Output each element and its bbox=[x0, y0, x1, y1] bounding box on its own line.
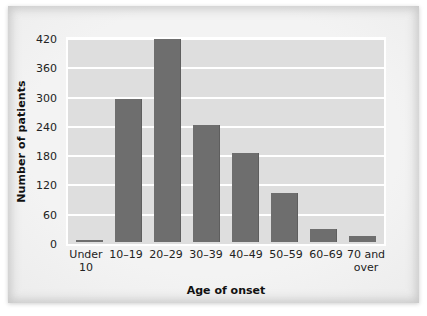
x-axis-tick-label-line: 40–49 bbox=[226, 248, 266, 261]
y-axis-tick-label: 300 bbox=[36, 91, 57, 104]
x-axis-tick-label-line: 30–39 bbox=[186, 248, 226, 261]
bar bbox=[310, 229, 337, 242]
y-axis-tick-label: 120 bbox=[36, 179, 57, 192]
x-axis-tick-label: 40–49 bbox=[226, 248, 266, 274]
x-axis-tick-label-line: 70 and bbox=[346, 248, 386, 261]
y-axis-tick-label: 420 bbox=[36, 33, 57, 46]
bar-chart-figure: Number of patients 060120180240300360420… bbox=[0, 0, 427, 316]
x-axis-tick-label: Under10 bbox=[66, 248, 106, 274]
x-axis-tick-label: 20–29 bbox=[146, 248, 186, 274]
bar-slot bbox=[187, 41, 226, 242]
bar bbox=[115, 99, 142, 242]
x-axis-tick-label: 50–59 bbox=[266, 248, 306, 274]
x-axis-tick-label-line: Under bbox=[66, 248, 106, 261]
y-axis-tick-labels: 060120180240300360420 bbox=[0, 37, 62, 246]
x-axis-tick-labels: Under1010–1920–2930–3940–4950–5960–6970 … bbox=[66, 248, 386, 274]
x-axis-title: Age of onset bbox=[66, 284, 386, 297]
bar-series bbox=[70, 41, 382, 242]
bar-slot bbox=[109, 41, 148, 242]
x-axis-tick-label-line: 10 bbox=[66, 261, 106, 274]
bar bbox=[349, 236, 376, 242]
y-axis-tick-label: 240 bbox=[36, 120, 57, 133]
bar bbox=[154, 39, 181, 242]
bar bbox=[193, 125, 220, 242]
x-axis-tick-label: 30–39 bbox=[186, 248, 226, 274]
y-axis-tick-label: 60 bbox=[43, 208, 57, 221]
bar-slot bbox=[70, 41, 109, 242]
x-axis-tick-label: 10–19 bbox=[106, 248, 146, 274]
x-axis-tick-label-line: 60–69 bbox=[306, 248, 346, 261]
plot-area bbox=[66, 37, 386, 246]
bar-slot bbox=[304, 41, 343, 242]
x-axis-tick-label-line: 20–29 bbox=[146, 248, 186, 261]
bar bbox=[232, 153, 259, 242]
bar-slot bbox=[343, 41, 382, 242]
y-axis-tick-label: 0 bbox=[50, 238, 57, 251]
bar-slot bbox=[226, 41, 265, 242]
x-axis-tick-label-line: 50–59 bbox=[266, 248, 306, 261]
bar-slot bbox=[265, 41, 304, 242]
x-axis-tick-label: 60–69 bbox=[306, 248, 346, 274]
x-axis-tick-label-line: over bbox=[346, 261, 386, 274]
y-axis-tick-label: 360 bbox=[36, 62, 57, 75]
bar bbox=[76, 240, 103, 242]
x-axis-tick-label: 70 andover bbox=[346, 248, 386, 274]
y-axis-tick-label: 180 bbox=[36, 150, 57, 163]
bar-slot bbox=[148, 41, 187, 242]
x-axis-tick-label-line: 10–19 bbox=[106, 248, 146, 261]
bar bbox=[271, 193, 298, 242]
gridline bbox=[68, 38, 384, 40]
plot-area-wrapper bbox=[66, 37, 386, 246]
